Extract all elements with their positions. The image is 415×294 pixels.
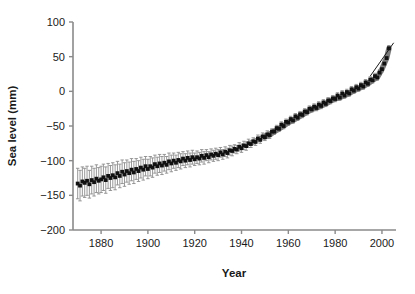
data-point: [141, 168, 145, 172]
data-point: [385, 56, 389, 60]
data-point: [343, 94, 347, 98]
x-axis-title: Year: [222, 267, 247, 279]
data-point: [272, 130, 276, 134]
sea-level-chart: 100500−50−100−150−2001880190019201940196…: [0, 0, 415, 294]
y-tick-label: 100: [47, 16, 65, 28]
data-point: [305, 110, 309, 114]
data-point: [258, 138, 262, 142]
data-point: [118, 174, 122, 178]
x-tick-label: 1900: [136, 237, 160, 249]
data-point: [254, 140, 258, 144]
data-point: [151, 166, 155, 170]
data-point: [361, 85, 365, 89]
data-point: [333, 97, 337, 101]
y-tick-label: 50: [53, 51, 65, 63]
data-point: [286, 121, 290, 125]
x-tick-label: 1880: [89, 237, 113, 249]
data-point: [268, 133, 272, 137]
axes-layer: 100500−50−100−150−2001880190019201940196…: [40, 16, 396, 249]
data-point: [113, 175, 117, 179]
data-point: [165, 163, 169, 167]
data-point: [291, 119, 295, 123]
data-point: [382, 62, 386, 66]
data-point: [282, 124, 286, 128]
y-axis-title: Sea level (mm): [6, 86, 18, 167]
data-point: [127, 171, 131, 175]
data-point: [78, 184, 82, 188]
data-point: [371, 78, 375, 82]
y-tick-label: −200: [40, 224, 65, 236]
y-tick-label: 0: [59, 85, 65, 97]
data-point: [104, 178, 108, 182]
data-point: [347, 92, 351, 96]
y-tick-label: −50: [46, 120, 65, 132]
data-point: [277, 127, 281, 131]
data-point: [300, 113, 304, 117]
y-tick-label: −100: [40, 155, 65, 167]
chart-canvas: 100500−50−100−150−2001880190019201940196…: [0, 0, 415, 294]
y-tick-label: −150: [40, 189, 65, 201]
x-tick-label: 1960: [276, 237, 300, 249]
data-point: [324, 102, 328, 106]
data-point: [137, 169, 141, 173]
data-point: [366, 82, 370, 86]
data-point: [338, 96, 342, 100]
data-point: [87, 182, 91, 186]
data-point: [378, 71, 382, 75]
x-tick-label: 1980: [323, 237, 347, 249]
x-tick-label: 2000: [370, 237, 394, 249]
data-point: [132, 171, 136, 175]
data-point: [319, 104, 323, 108]
x-tick-label: 1940: [229, 237, 253, 249]
data-point: [375, 76, 379, 80]
data-layer: [76, 43, 394, 201]
data-point: [315, 106, 319, 110]
x-tick-label: 1920: [182, 237, 206, 249]
data-point: [92, 180, 96, 184]
data-point: [380, 67, 384, 71]
data-point: [357, 87, 361, 91]
smoothed-band: [265, 48, 389, 137]
data-point: [85, 179, 89, 183]
data-point: [296, 116, 300, 120]
data-point: [123, 173, 127, 177]
data-point: [352, 89, 356, 93]
